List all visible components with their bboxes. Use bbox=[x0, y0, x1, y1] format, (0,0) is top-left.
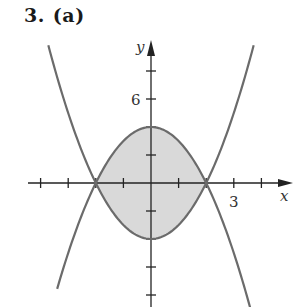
x-axis-label: x bbox=[280, 187, 289, 205]
y-axis-arrow-icon bbox=[147, 40, 155, 56]
y-axis-label: y bbox=[135, 38, 145, 56]
x-tick-label-3: 3 bbox=[229, 193, 239, 211]
y-tick-label-6: 6 bbox=[131, 91, 141, 109]
x-axis-arrow-icon bbox=[278, 179, 293, 187]
plot-area: x y 3 6 bbox=[0, 0, 307, 307]
